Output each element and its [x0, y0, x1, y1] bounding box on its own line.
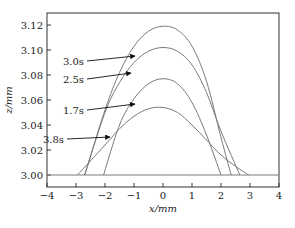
x-tick-label: −1 — [127, 190, 142, 201]
y-tick-label: 3.06 — [21, 95, 43, 106]
y-axis-label: z/mm — [3, 86, 14, 115]
y-axis: 3.003.023.043.063.083.103.12 — [21, 20, 51, 181]
x-tick-label: −3 — [69, 190, 84, 201]
annotation-arrow — [67, 137, 110, 139]
chart: 3.003.023.043.063.083.103.12 −4−3−2−1012… — [0, 0, 295, 228]
y-tick-label: 3.10 — [21, 45, 43, 56]
series-lines — [77, 26, 248, 175]
x-tick-label: −2 — [98, 190, 113, 201]
x-tick-label: 2 — [218, 190, 224, 201]
annotation-label: 1.7s — [63, 105, 84, 116]
x-tick-label: 1 — [189, 190, 195, 201]
annotation-label: 3.8s — [43, 134, 64, 145]
series-line-2.5s — [85, 48, 240, 176]
y-tick-label: 3.04 — [21, 120, 43, 131]
annotation-arrow — [87, 73, 131, 79]
y-tick-label: 3.08 — [21, 70, 43, 81]
x-tick-label: 0 — [160, 190, 166, 201]
annotation-label: 2.5s — [63, 74, 84, 85]
x-tick-label: 3 — [247, 190, 253, 201]
x-axis-label: x/mm — [149, 203, 177, 214]
series-line-3.0s — [85, 26, 231, 175]
x-axis: −4−3−2−101234 — [40, 183, 283, 201]
y-tick-label: 3.00 — [21, 170, 43, 181]
y-tick-label: 3.02 — [21, 145, 43, 156]
x-tick-label: −4 — [40, 190, 55, 201]
plot-frame — [47, 13, 279, 187]
annotation-arrow — [87, 56, 135, 61]
annotation-label: 3.0s — [63, 56, 84, 67]
x-tick-label: 4 — [276, 190, 282, 201]
y-tick-label: 3.12 — [21, 20, 43, 31]
